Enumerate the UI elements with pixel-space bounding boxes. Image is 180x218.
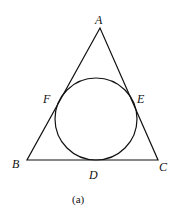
incircle [55,78,137,160]
triangle-incircle-diagram: A B C D E F (a) [0,0,180,218]
label-tangent-e: E [136,92,145,106]
figure-caption: (a) [72,193,85,206]
label-tangent-f: F [42,92,51,106]
label-vertex-b: B [12,157,20,171]
label-vertex-a: A [94,13,103,27]
label-vertex-c: C [159,160,168,174]
label-tangent-d: D [88,168,98,182]
